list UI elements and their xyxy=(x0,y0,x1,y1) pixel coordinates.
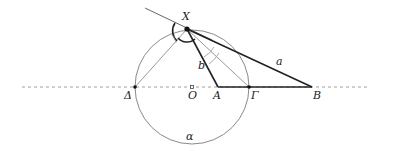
segment-b xyxy=(187,29,218,87)
angle-arc-gray-2 xyxy=(204,47,214,57)
label-segment-a: a xyxy=(276,55,283,68)
label-delta: Δ xyxy=(123,89,132,102)
segment-a xyxy=(187,29,312,87)
geometry-diagram: X Δ O A Γ B a b α xyxy=(0,0,397,151)
point-delta xyxy=(133,85,137,89)
point-x xyxy=(184,26,189,31)
label-o: O xyxy=(188,89,197,102)
label-a-point: A xyxy=(212,89,221,102)
label-circle-alpha: α xyxy=(186,130,194,143)
label-segment-b: b xyxy=(198,59,205,72)
label-b-point: B xyxy=(312,89,321,102)
label-x: X xyxy=(181,10,191,23)
label-gamma: Γ xyxy=(250,89,259,102)
segment-x-gamma xyxy=(187,29,249,87)
